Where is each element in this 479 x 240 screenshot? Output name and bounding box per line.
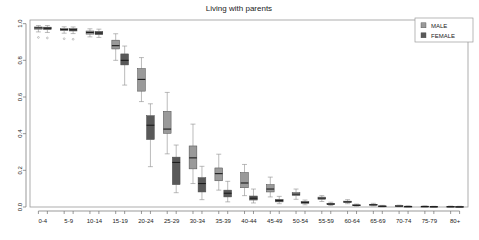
box-male-80+ xyxy=(447,206,455,207)
x-tick-label: 75-79 xyxy=(422,218,438,224)
x-tick-label: 55-59 xyxy=(319,218,335,224)
box-female-70-74 xyxy=(404,206,412,207)
box-male-0-4 xyxy=(35,26,43,39)
box-female-65-69 xyxy=(378,205,386,206)
legend-label-female[interactable]: FEMALE xyxy=(431,33,455,39)
x-tick-label: 30-34 xyxy=(190,218,206,224)
box-male-10-14 xyxy=(86,29,94,37)
box-male-45-49 xyxy=(266,177,274,197)
box-female-25-29 xyxy=(172,145,180,193)
y-tick-label: 0.4 xyxy=(17,129,23,138)
box-male-65-69 xyxy=(369,203,377,206)
x-tick-label: 25-29 xyxy=(164,218,180,224)
box-male-35-39 xyxy=(215,154,223,190)
y-tick-label: 0.8 xyxy=(17,56,23,65)
box-male-25-29 xyxy=(163,92,171,153)
y-axis: 1.00.80.60.40.20.0 xyxy=(17,19,26,211)
x-tick-label: 35-39 xyxy=(216,218,232,224)
box-iqr xyxy=(121,54,129,65)
boxplot-series-female xyxy=(44,26,464,208)
box-male-20-24 xyxy=(138,58,146,102)
x-tick-label: 0-4 xyxy=(39,218,48,224)
box-iqr xyxy=(112,40,120,49)
legend-swatch-male xyxy=(421,23,426,28)
box-iqr xyxy=(147,116,155,140)
box-female-5-9 xyxy=(69,27,77,40)
legend-label-male[interactable]: MALE xyxy=(431,23,447,29)
x-tick-label: 60-64 xyxy=(344,218,360,224)
y-tick-label: 0.6 xyxy=(17,92,23,101)
box-female-50-54 xyxy=(301,200,309,205)
box-male-70-74 xyxy=(395,205,403,206)
box-female-55-59 xyxy=(327,202,335,205)
outlier-point xyxy=(37,37,39,39)
x-tick-label: 5-9 xyxy=(64,218,73,224)
y-tick-label: 1.0 xyxy=(17,19,23,28)
y-tick-label: 0.0 xyxy=(17,202,23,211)
boxplot-series-male xyxy=(35,26,455,208)
x-tick-label: 80+ xyxy=(450,218,461,224)
outlier-point xyxy=(72,38,74,40)
chart-container: Living with parents 1.00.80.60.40.20.0 0… xyxy=(0,0,479,240)
legend-swatch-female xyxy=(421,33,426,38)
box-female-40-44 xyxy=(250,189,258,203)
x-tick-label: 15-19 xyxy=(112,218,128,224)
box-male-55-59 xyxy=(318,196,326,202)
x-tick-label: 45-49 xyxy=(267,218,283,224)
box-male-50-54 xyxy=(292,189,300,199)
x-tick-label: 20-24 xyxy=(138,218,154,224)
outlier-point xyxy=(63,38,65,40)
x-tick-label: 50-54 xyxy=(293,218,309,224)
x-tick-label: 65-69 xyxy=(370,218,386,224)
box-iqr xyxy=(266,185,274,192)
x-tick-label: 10-14 xyxy=(87,218,103,224)
box-iqr xyxy=(198,178,206,192)
box-male-15-19 xyxy=(112,34,120,61)
chart-title: Living with parents xyxy=(206,4,272,13)
box-female-10-14 xyxy=(95,29,103,37)
x-tick-label: 40-44 xyxy=(241,218,257,224)
box-iqr xyxy=(163,111,171,133)
box-female-80+ xyxy=(456,206,464,207)
box-female-75-79 xyxy=(430,206,438,207)
chart-legend[interactable]: MALEFEMALE xyxy=(415,18,473,42)
box-iqr xyxy=(172,157,180,185)
box-female-0-4 xyxy=(44,26,52,39)
box-female-60-64 xyxy=(353,204,361,206)
boxplot-chart: Living with parents 1.00.80.60.40.20.0 0… xyxy=(0,0,479,240)
box-male-60-64 xyxy=(344,200,352,204)
box-iqr xyxy=(215,168,223,181)
box-female-15-19 xyxy=(121,46,129,85)
y-tick-label: 0.2 xyxy=(17,166,23,175)
box-male-40-44 xyxy=(241,164,249,195)
x-tick-label: 70-74 xyxy=(396,218,412,224)
x-axis: 0-45-910-1415-1920-2425-2930-3435-3940-4… xyxy=(38,211,460,224)
box-female-45-49 xyxy=(275,196,283,203)
boxplot-series-layer xyxy=(35,26,464,208)
box-female-20-24 xyxy=(147,104,155,167)
plot-border xyxy=(30,20,468,207)
box-female-35-39 xyxy=(224,181,232,202)
box-iqr xyxy=(241,173,249,188)
box-male-5-9 xyxy=(60,27,68,40)
outlier-point xyxy=(46,37,48,39)
box-female-30-34 xyxy=(198,166,206,199)
box-male-75-79 xyxy=(421,206,429,207)
plot-frame xyxy=(30,20,468,207)
box-male-30-34 xyxy=(189,124,197,183)
